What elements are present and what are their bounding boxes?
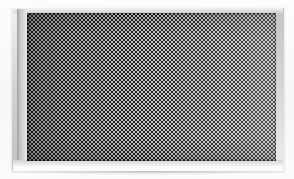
perforated-mesh-field bbox=[27, 13, 276, 161]
mesh-fine-weave-layer bbox=[27, 13, 276, 161]
frame-bevel-left bbox=[17, 9, 27, 169]
image-canvas: Close-up of a rectangular speaker/vent g… bbox=[0, 0, 294, 179]
panel-cast-shadow bbox=[18, 171, 280, 175]
